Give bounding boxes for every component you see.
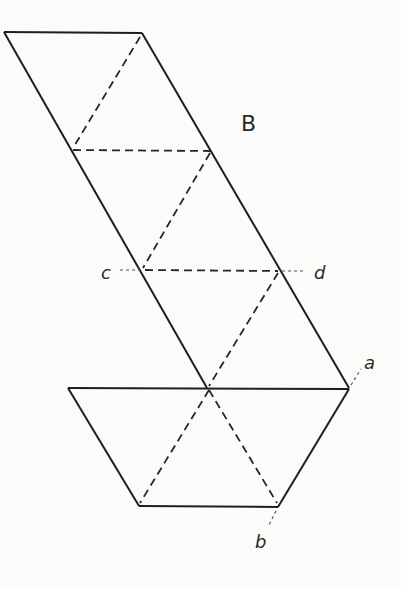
point-label-c: c (101, 262, 111, 283)
extension-lines (120, 270, 361, 527)
region-label-b: B (241, 111, 256, 136)
point-label-b: b (255, 531, 266, 552)
point-label-a: a (364, 352, 375, 373)
trapezoid-outline (68, 388, 349, 507)
trapezoid-fold-lines (140, 390, 277, 503)
net-diagram: B c d a b (0, 0, 401, 589)
point-label-d: d (314, 262, 326, 283)
